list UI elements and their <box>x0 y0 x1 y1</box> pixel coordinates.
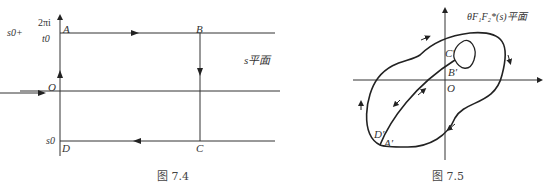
point-d-prime-label: D′ <box>374 129 384 140</box>
inner-path <box>380 60 455 145</box>
figure-7-4 <box>20 17 280 156</box>
arrow-ab-icon <box>131 30 139 36</box>
diagram-canvas <box>0 0 560 192</box>
point-c-label: C <box>196 143 203 154</box>
arrow-da-icon <box>57 70 63 78</box>
point-a-prime-label: A′ <box>384 138 393 149</box>
arrow-cd-icon <box>133 138 141 144</box>
y-label-top-prefix: s0+ <box>7 28 23 38</box>
caption-right: 图 7.5 <box>432 171 464 182</box>
arrow-bc-icon <box>197 68 203 76</box>
origin-label: O <box>48 82 56 93</box>
origin-label-right: O <box>447 83 455 94</box>
caption-left: 图 7.4 <box>157 171 189 182</box>
plane-label-left: s平面 <box>244 55 270 66</box>
point-a-label: A <box>63 24 70 35</box>
y-label-top-den: t0 <box>42 34 50 44</box>
point-b-prime-label: B′ <box>448 67 457 78</box>
plane-label-right: θF₁F₂*(s)平面 <box>467 12 527 22</box>
point-b-label: B <box>196 24 203 35</box>
small-loop <box>454 40 475 68</box>
point-d-label: D <box>62 143 70 154</box>
y-label-bottom: s0 <box>46 136 55 146</box>
y-label-top-num: 2πi <box>38 18 51 28</box>
point-c-prime-label: C′ <box>445 48 455 59</box>
